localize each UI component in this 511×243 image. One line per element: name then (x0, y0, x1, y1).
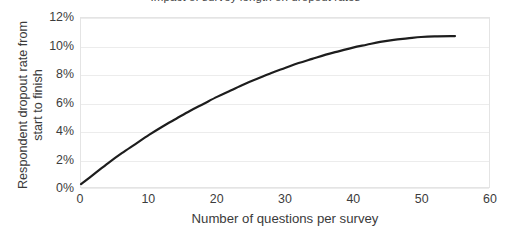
chart-figure: Impact of survey length on dropout rates… (0, 0, 511, 243)
y-tick-label: 8% (14, 68, 74, 80)
chart-title: Impact of survey length on dropout rates (0, 0, 511, 3)
y-axis-tick-labels: 0%2%4%6%8%10%12% (10, 17, 74, 188)
x-tick-label: 20 (197, 192, 237, 206)
x-axis-title: Number of questions per survey (80, 211, 490, 226)
x-tick-label: 0 (60, 192, 100, 206)
x-tick-label: 50 (402, 192, 442, 206)
y-tick-label: 12% (14, 11, 74, 23)
data-series-line (81, 18, 489, 187)
x-tick-label: 10 (128, 192, 168, 206)
x-tick-label: 40 (333, 192, 373, 206)
x-axis-tick-labels: 0102030405060 (80, 192, 490, 208)
plot-area (80, 17, 490, 188)
gridline (81, 188, 489, 189)
x-tick-label: 30 (265, 192, 305, 206)
y-tick-label: 10% (14, 40, 74, 52)
y-tick-label: 4% (14, 125, 74, 137)
x-tick-label: 60 (470, 192, 510, 206)
y-tick-label: 2% (14, 154, 74, 166)
y-tick-label: 6% (14, 97, 74, 109)
